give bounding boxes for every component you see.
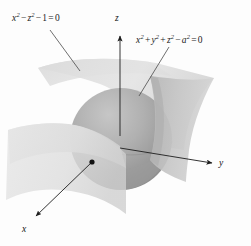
axis-label-z: z <box>115 13 119 23</box>
sphere-eq-op-3: − <box>174 35 182 45</box>
cylinder-eq-equals: = <box>47 13 55 23</box>
math-figure-sphere-cylinder: x2−z2−1=0 x2+y2+z2−a2=0 z y x <box>0 0 251 246</box>
sphere-eq-op-2: + <box>159 35 167 45</box>
sphere-equation-label: x2+y2+z2−a2=0 <box>136 35 203 45</box>
sphere-eq-rhs: 0 <box>198 35 203 45</box>
origin-point-marker <box>89 159 94 164</box>
cylinder-equation-label: x2−z2−1=0 <box>12 13 60 23</box>
axis-label-y: y <box>219 158 223 168</box>
figure-canvas <box>0 0 251 246</box>
cylinder-eq-rhs: 0 <box>55 13 60 23</box>
sphere-eq-equals: = <box>190 35 198 45</box>
axis-label-x: x <box>22 224 26 234</box>
